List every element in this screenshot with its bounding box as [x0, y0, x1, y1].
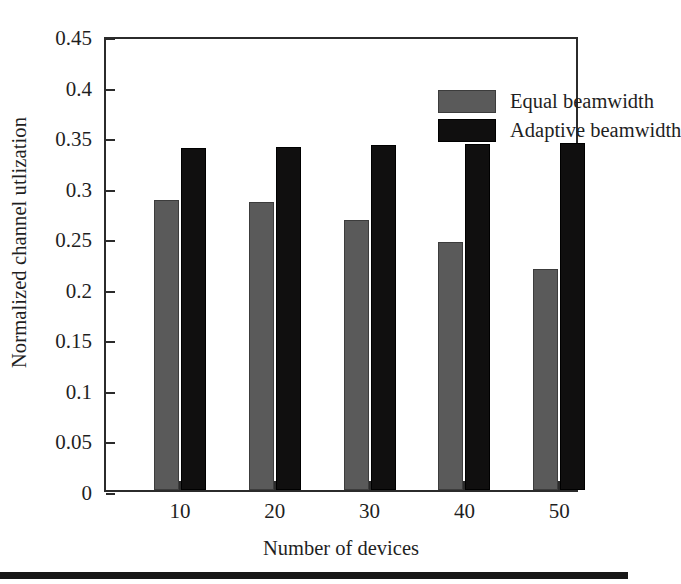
y-tick-label: 0.05 [2, 430, 92, 455]
bar-adaptive-beamwidth [181, 148, 206, 490]
y-tick-label: 0.15 [2, 329, 92, 354]
y-tick-label: 0.25 [2, 228, 92, 253]
bar-equal-beamwidth [438, 242, 463, 490]
y-tick-mark [106, 442, 115, 444]
page-bottom-rule [0, 572, 628, 579]
y-tick-mark [106, 493, 115, 495]
x-tick-label: 30 [325, 499, 415, 524]
legend-swatch-equal-beamwidth [438, 90, 496, 113]
bar-adaptive-beamwidth [276, 147, 301, 490]
legend-swatch-adaptive-beamwidth [438, 119, 496, 142]
legend-item-equal-beamwidth: Equal beamwidth [438, 87, 681, 116]
y-tick-label: 0.1 [2, 380, 92, 405]
legend-label-adaptive-beamwidth: Adaptive beamwidth [510, 120, 681, 141]
legend-item-adaptive-beamwidth: Adaptive beamwidth [438, 116, 681, 145]
y-tick-mark [106, 291, 115, 293]
x-tick-label: 40 [419, 499, 509, 524]
legend-label-equal-beamwidth: Equal beamwidth [510, 91, 654, 112]
y-tick-mark [106, 341, 115, 343]
y-tick-mark [106, 392, 115, 394]
y-tick-label: 0.35 [2, 127, 92, 152]
y-tick-label: 0.2 [2, 279, 92, 304]
y-tick-label: 0 [2, 481, 92, 506]
bar-adaptive-beamwidth [465, 144, 490, 490]
y-tick-mark [106, 139, 115, 141]
y-tick-mark [106, 190, 115, 192]
y-tick-mark [106, 38, 115, 40]
x-axis-title: Number of devices [104, 537, 578, 560]
y-tick-mark [106, 89, 115, 91]
bar-adaptive-beamwidth [560, 143, 585, 490]
bar-equal-beamwidth [154, 200, 179, 490]
y-tick-label: 0.4 [2, 77, 92, 102]
bar-equal-beamwidth [344, 220, 369, 490]
x-tick-label: 10 [135, 499, 225, 524]
plot-area: 00.050.10.150.20.250.30.350.40.45 102030… [104, 37, 578, 492]
x-tick-label: 20 [230, 499, 320, 524]
y-tick-label: 0.3 [2, 178, 92, 203]
y-tick-label: 0.45 [2, 26, 92, 51]
bar-equal-beamwidth [533, 269, 558, 490]
chart-legend: Equal beamwidth Adaptive beamwidth [438, 87, 681, 145]
bar-equal-beamwidth [249, 202, 274, 490]
bar-adaptive-beamwidth [371, 145, 396, 490]
y-tick-mark [106, 240, 115, 242]
x-tick-label: 50 [514, 499, 604, 524]
